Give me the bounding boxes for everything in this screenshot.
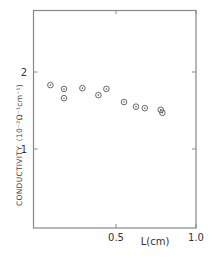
y-tick-2: 2 bbox=[21, 67, 27, 78]
x-axis-title: L(cm) bbox=[141, 236, 170, 247]
data-point bbox=[133, 104, 139, 110]
data-point bbox=[80, 85, 86, 91]
plot-frame bbox=[34, 11, 197, 229]
data-point bbox=[104, 86, 110, 92]
data-point bbox=[96, 92, 102, 98]
data-point bbox=[48, 82, 54, 88]
axis-ticks bbox=[34, 11, 197, 229]
y-axis-title: CONDUCTIVITY (10⁻²Ω⁻¹cm⁻¹) bbox=[15, 84, 24, 206]
conductivity-chart: 2 1 0.5 1.0 L(cm) CONDUCTIVITY (10⁻²Ω⁻¹c… bbox=[0, 0, 213, 258]
data-points bbox=[48, 82, 166, 115]
data-point bbox=[61, 95, 67, 101]
data-point bbox=[142, 105, 148, 111]
data-point bbox=[121, 99, 127, 105]
x-tick-0.5: 0.5 bbox=[108, 232, 124, 243]
data-point bbox=[61, 86, 67, 92]
x-tick-1.0: 1.0 bbox=[188, 232, 204, 243]
